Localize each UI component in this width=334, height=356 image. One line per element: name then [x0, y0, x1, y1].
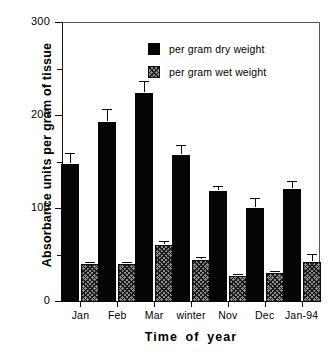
x-tick-label-Feb: Feb	[99, 310, 136, 321]
error-cap-Mar-dry	[139, 81, 149, 82]
error-bar-Mar-dry	[144, 81, 145, 92]
error-cap-winter-wet	[196, 257, 206, 258]
bar-winter-wet	[192, 260, 210, 302]
error-cap-Nov-dry	[213, 186, 223, 187]
y-axis-title: Absorbance units per gram of tissue	[40, 10, 54, 300]
error-cap-Jan-dry	[65, 153, 75, 154]
bar-Feb-dry	[98, 122, 116, 302]
y-tick-label-0: 0	[0, 295, 50, 306]
error-bar-Dec-dry	[255, 198, 256, 207]
y-tick-label-100: 100	[0, 202, 50, 213]
bar-Jan-wet	[81, 264, 99, 302]
chart-legend: per gram dry weight per gram wet weight	[148, 40, 266, 86]
x-axis-title: Time of year	[62, 330, 320, 344]
x-tick-label-Mar: Mar	[136, 310, 173, 321]
error-bar-Feb-dry	[107, 109, 108, 120]
x-tick-label-Jan: Jan	[62, 310, 99, 321]
legend-label-dry: per gram dry weight	[169, 43, 265, 55]
legend-item-wet: per gram wet weight	[148, 63, 266, 80]
bar-Dec-wet	[266, 273, 284, 302]
error-cap-winter-dry	[176, 145, 186, 146]
error-cap-Feb-dry	[102, 109, 112, 110]
bar-Mar-wet	[155, 245, 173, 302]
y-tick-label-300: 300	[0, 16, 50, 27]
x-tick-Dec	[265, 301, 266, 307]
error-cap-Dec-wet	[270, 271, 280, 272]
bar-Jan-dry	[61, 164, 79, 302]
bar-Jan-94-wet	[303, 262, 321, 302]
error-bar-Jan-94-wet	[312, 254, 313, 261]
error-cap-Mar-wet	[159, 241, 169, 242]
y-tick-label-200: 200	[0, 109, 50, 120]
error-bar-Jan-dry	[70, 153, 71, 163]
x-tick-winter	[191, 301, 192, 307]
bar-winter-dry	[172, 155, 190, 302]
legend-swatch-dry-icon	[148, 43, 160, 55]
error-cap-Nov-wet	[233, 274, 243, 275]
x-tick-Jan-94	[302, 301, 303, 307]
legend-swatch-wet-icon	[148, 66, 160, 78]
legend-item-dry: per gram dry weight	[148, 40, 266, 57]
x-tick-Nov	[228, 301, 229, 307]
error-bar-winter-dry	[181, 145, 182, 154]
y-tick-300	[55, 22, 62, 23]
legend-label-wet: per gram wet weight	[169, 66, 266, 78]
bar-Nov-dry	[209, 191, 227, 302]
bar-Dec-dry	[246, 208, 264, 302]
error-cap-Jan-wet	[85, 262, 95, 263]
bar-Feb-wet	[118, 264, 136, 302]
error-cap-Jan-94-dry	[287, 181, 297, 182]
error-cap-Feb-wet	[122, 262, 132, 263]
x-tick-Jan	[80, 301, 81, 307]
bar-chart-figure: Absorbance units per gram of tissue 0100…	[0, 0, 334, 356]
x-tick-label-Jan-94: Jan-94	[283, 310, 320, 321]
error-cap-Dec-dry	[250, 198, 260, 199]
x-tick-label-Dec: Dec	[246, 310, 283, 321]
error-cap-Jan-94-wet	[307, 254, 317, 255]
x-tick-Feb	[117, 301, 118, 307]
x-tick-Mar	[154, 301, 155, 307]
bar-Jan-94-dry	[283, 189, 301, 302]
y-tick-200	[55, 115, 62, 116]
x-tick-label-winter: winter	[173, 310, 210, 321]
x-tick-label-Nov: Nov	[209, 310, 246, 321]
bar-Mar-dry	[135, 93, 153, 302]
bar-Nov-wet	[229, 276, 247, 302]
